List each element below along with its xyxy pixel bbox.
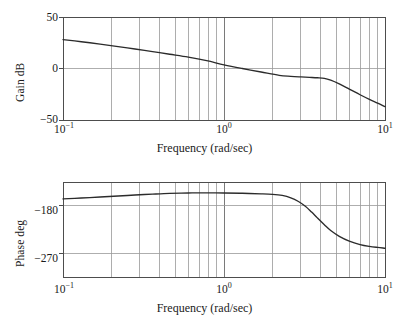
phase-x-axis-label: Frequency (rad/sec) (0, 301, 409, 316)
gain-ytick-50: 50 (28, 11, 58, 23)
gain-xtick-1: 100 (204, 123, 244, 135)
phase-xtick-0p1: 10−1 (44, 283, 84, 295)
phase-xtick-10: 101 (365, 283, 405, 295)
phase-xtick-0p1-base: 10 (54, 283, 66, 295)
gain-xtick-0p1-exp: −1 (65, 121, 74, 130)
gain-xtick-0p1-base: 10 (54, 123, 66, 135)
gain-x-axis-label: Frequency (rad/sec) (0, 141, 409, 156)
gain-xtick-10-exp: 1 (389, 121, 393, 130)
phase-xtick-1: 100 (204, 283, 244, 295)
phase-xtick-10-exp: 1 (389, 281, 393, 290)
gain-xtick-10-base: 10 (377, 123, 389, 135)
gain-xtick-1-exp: 0 (228, 121, 232, 130)
phase-xtick-0p1-exp: −1 (65, 281, 74, 290)
gain-subplot: Gain dB 50 0 −50 10−1 100 101 Frequency … (0, 0, 409, 163)
phase-xtick-10-base: 10 (377, 283, 389, 295)
gain-ytick-0: 0 (28, 62, 58, 74)
gain-y-axis-label: Gain dB (14, 63, 26, 102)
gain-xtick-10: 101 (365, 123, 405, 135)
gain-plot-canvas (0, 0, 409, 163)
gain-xtick-1-base: 10 (216, 123, 228, 135)
phase-subplot: Phase deg −180 −270 10−1 100 101 Frequen… (0, 163, 409, 326)
phase-ytick-minus270: −270 (18, 252, 58, 264)
phase-xtick-1-base: 10 (216, 283, 228, 295)
phase-ytick-minus180: −180 (18, 204, 58, 216)
bode-plot-figure: Gain dB 50 0 −50 10−1 100 101 Frequency … (0, 0, 409, 326)
phase-xtick-1-exp: 0 (228, 281, 232, 290)
gain-xtick-0p1: 10−1 (44, 123, 84, 135)
